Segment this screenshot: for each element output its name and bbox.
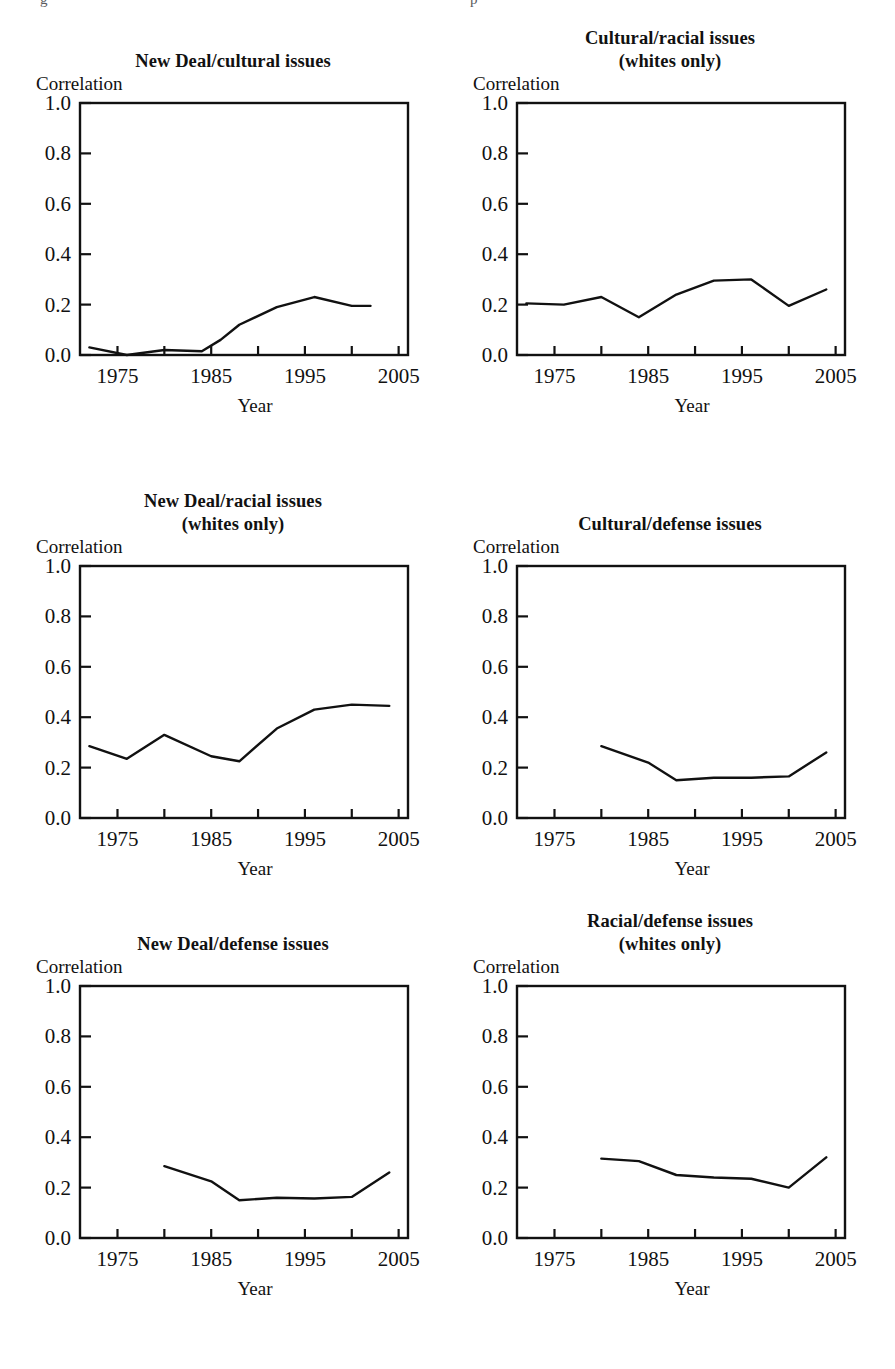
y-axis-label: Correlation — [455, 536, 885, 558]
y-tick-label: 1.0 — [45, 978, 71, 998]
y-tick-label: 0.4 — [45, 705, 72, 729]
line-chart-svg: 0.00.20.40.60.81.01975198519952005 — [455, 558, 885, 858]
x-tick-label: 1975 — [96, 827, 138, 851]
y-tick-label: 0.0 — [482, 806, 508, 830]
x-tick-label: 1995 — [721, 1247, 763, 1271]
x-tick-label: 1975 — [533, 827, 575, 851]
y-tick-label: 1.0 — [482, 978, 508, 998]
plot-area: 0.00.20.40.60.81.01975198519952005 — [18, 978, 448, 1278]
y-tick-label: 0.0 — [45, 343, 71, 367]
x-tick-label: 1985 — [190, 1247, 232, 1271]
panel-title-line2: (whites only) — [455, 933, 885, 956]
plot-area: 0.00.20.40.60.81.01975198519952005 — [18, 558, 448, 858]
y-tick-label: 0.6 — [482, 655, 508, 679]
plot-area: 0.00.20.40.60.81.01975198519952005 — [18, 95, 448, 395]
panel-title-line1: Cultural/racial issues — [585, 28, 755, 48]
panel-title-line1: New Deal/cultural issues — [135, 51, 331, 71]
y-tick-label: 0.4 — [482, 705, 509, 729]
x-axis-label: Year — [455, 395, 885, 417]
y-tick-label: 0.8 — [45, 604, 71, 628]
x-tick-label: 1995 — [721, 827, 763, 851]
line-chart-svg: 0.00.20.40.60.81.01975198519952005 — [18, 558, 448, 858]
y-axis-label: Correlation — [455, 956, 885, 978]
plot-area: 0.00.20.40.60.81.01975198519952005 — [455, 558, 885, 858]
x-axis-label: Year — [455, 1278, 885, 1300]
y-axis-label: Correlation — [455, 73, 885, 95]
x-axis-label: Year — [18, 858, 448, 880]
plot-frame — [517, 986, 845, 1238]
x-tick-label: 2005 — [815, 364, 857, 388]
clipped-text-left: g — [40, 0, 48, 7]
x-axis-label: Year — [18, 1278, 448, 1300]
x-tick-label: 1985 — [627, 1247, 669, 1271]
x-tick-label: 1985 — [627, 364, 669, 388]
clipped-text-fragment: g p — [0, 0, 895, 7]
y-tick-label: 0.8 — [482, 141, 508, 165]
y-tick-label: 0.2 — [482, 1176, 508, 1200]
y-tick-label: 0.6 — [482, 192, 508, 216]
plot-frame — [80, 566, 408, 818]
y-tick-label: 0.8 — [45, 141, 71, 165]
y-tick-label: 0.0 — [45, 1226, 71, 1250]
panel-title: New Deal/defense issues — [18, 933, 448, 956]
y-tick-label: 0.6 — [45, 192, 71, 216]
x-tick-label: 2005 — [378, 364, 420, 388]
clipped-text-right: p — [470, 0, 478, 7]
y-axis-label: Correlation — [18, 956, 448, 978]
x-tick-label: 2005 — [378, 827, 420, 851]
y-tick-label: 1.0 — [45, 558, 71, 578]
y-tick-label: 0.4 — [45, 1125, 72, 1149]
data-series-line — [601, 746, 826, 780]
x-tick-label: 1975 — [533, 364, 575, 388]
y-tick-label: 0.4 — [482, 242, 509, 266]
panel-title: Cultural/defense issues — [455, 513, 885, 536]
y-tick-label: 0.2 — [45, 1176, 71, 1200]
y-tick-label: 0.8 — [482, 604, 508, 628]
panel-title-line2: (whites only) — [18, 513, 448, 536]
y-tick-label: 0.6 — [45, 655, 71, 679]
x-tick-label: 1995 — [284, 1247, 326, 1271]
panel-title: Cultural/racial issues (whites only) — [455, 27, 885, 73]
y-tick-label: 0.0 — [482, 1226, 508, 1250]
y-tick-label: 0.6 — [482, 1075, 508, 1099]
chart-panel-cultural-racial-whites: Cultural/racial issues (whites only) Cor… — [455, 27, 885, 417]
chart-panel-new-deal-cultural: New Deal/cultural issues Correlation 0.0… — [18, 50, 448, 417]
x-tick-label: 2005 — [378, 1247, 420, 1271]
y-tick-label: 0.8 — [45, 1024, 71, 1048]
x-tick-label: 1995 — [284, 827, 326, 851]
y-tick-label: 1.0 — [482, 95, 508, 115]
y-tick-label: 0.2 — [45, 293, 71, 317]
data-series-line — [526, 279, 826, 317]
panel-title-line1: Racial/defense issues — [587, 911, 753, 931]
panel-title-line1: Cultural/defense issues — [578, 514, 762, 534]
plot-frame — [517, 103, 845, 355]
y-tick-label: 0.0 — [482, 343, 508, 367]
plot-area: 0.00.20.40.60.81.01975198519952005 — [455, 95, 885, 395]
x-axis-label: Year — [18, 395, 448, 417]
data-series-line — [89, 705, 389, 762]
x-tick-label: 1985 — [627, 827, 669, 851]
x-tick-label: 1975 — [533, 1247, 575, 1271]
y-tick-label: 0.2 — [482, 756, 508, 780]
x-tick-label: 1975 — [96, 364, 138, 388]
x-axis-label: Year — [455, 858, 885, 880]
panel-title: New Deal/racial issues (whites only) — [18, 490, 448, 536]
y-tick-label: 0.2 — [45, 756, 71, 780]
y-tick-label: 0.8 — [482, 1024, 508, 1048]
y-tick-label: 1.0 — [45, 95, 71, 115]
line-chart-svg: 0.00.20.40.60.81.01975198519952005 — [18, 978, 448, 1278]
panel-title-line1: New Deal/racial issues — [144, 491, 322, 511]
x-tick-label: 1985 — [190, 364, 232, 388]
panel-title: Racial/defense issues (whites only) — [455, 910, 885, 956]
line-chart-svg: 0.00.20.40.60.81.01975198519952005 — [18, 95, 448, 395]
plot-area: 0.00.20.40.60.81.01975198519952005 — [455, 978, 885, 1278]
x-tick-label: 2005 — [815, 1247, 857, 1271]
data-series-line — [164, 1166, 389, 1200]
y-tick-label: 0.0 — [45, 806, 71, 830]
x-tick-label: 1985 — [190, 827, 232, 851]
plot-frame — [80, 103, 408, 355]
line-chart-svg: 0.00.20.40.60.81.01975198519952005 — [455, 978, 885, 1278]
line-chart-svg: 0.00.20.40.60.81.01975198519952005 — [455, 95, 885, 395]
chart-panel-new-deal-racial-whites: New Deal/racial issues (whites only) Cor… — [18, 490, 448, 880]
panel-title-line2: (whites only) — [455, 50, 885, 73]
